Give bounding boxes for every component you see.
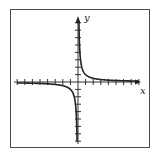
x-axis-label: x: [140, 86, 146, 96]
curve-branch-negative: [17, 83, 77, 141]
plot-area: [0, 0, 158, 156]
curve-branch-positive: [79, 23, 139, 81]
y-axis-arrow-icon: [76, 16, 81, 23]
y-axis-label: y: [84, 13, 90, 23]
